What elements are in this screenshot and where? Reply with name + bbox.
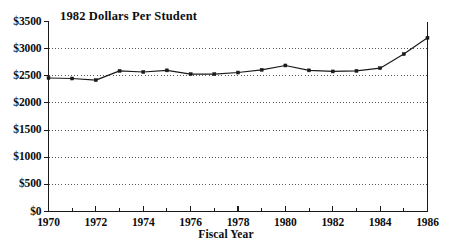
y-axis-tick-label: $500	[0, 177, 42, 189]
x-axis-tick-label: 1980	[258, 216, 312, 228]
x-axis-tick-label: 1976	[164, 216, 218, 228]
y-axis-tick-label: $3000	[0, 42, 42, 54]
y-axis-tick-label: $2500	[0, 69, 42, 81]
y-axis-tick-label: $3500	[0, 15, 42, 27]
chart-container: 1982 Dollars Per Student Fiscal Year $0$…	[0, 0, 452, 247]
y-axis-tick-label: $1000	[0, 150, 42, 162]
line-chart-plot	[0, 0, 452, 247]
data-point-markers	[47, 36, 429, 81]
x-axis-tick-label: 1978	[211, 216, 265, 228]
x-axis-tick-label: 1970	[22, 216, 76, 228]
x-axis-tick-label: 1984	[353, 216, 407, 228]
chart-title: 1982 Dollars Per Student	[60, 9, 197, 24]
x-axis-tick-label: 1974	[116, 216, 170, 228]
x-axis-tick-label: 1972	[69, 216, 123, 228]
y-axis-tick-label: $2000	[0, 96, 42, 108]
y-axis-tick-label: $1500	[0, 123, 42, 135]
axis-lines	[49, 22, 428, 212]
x-axis-tick-label: 1982	[306, 216, 360, 228]
x-axis-ticks	[49, 206, 428, 212]
x-axis-tick-label: 1986	[401, 216, 452, 228]
x-axis-title: Fiscal Year	[0, 228, 452, 240]
